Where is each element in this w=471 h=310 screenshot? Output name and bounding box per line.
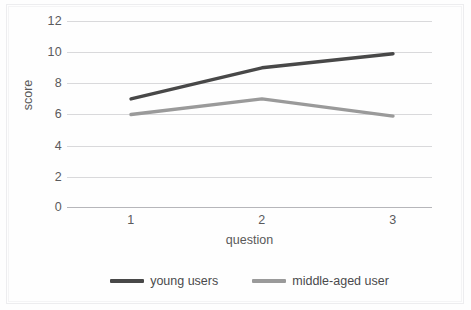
legend-label: young users — [150, 274, 218, 288]
y-axis-title: score — [21, 65, 35, 125]
y-tick-label: 10 — [28, 45, 62, 59]
legend-label: middle-aged user — [292, 274, 389, 288]
legend-swatch-icon — [110, 279, 144, 283]
x-tick-label: 1 — [127, 213, 134, 227]
legend-item-middle-aged-user: middle-aged user — [252, 274, 389, 288]
legend-item-young-users: young users — [110, 274, 218, 288]
series-line-middle-aged-user — [131, 99, 393, 116]
x-tick-label: 2 — [258, 213, 265, 227]
y-tick-label: 4 — [28, 139, 62, 153]
y-tick-label: 2 — [28, 170, 62, 184]
plot-area — [67, 21, 432, 208]
y-tick-label: 0 — [28, 200, 62, 214]
x-tick-label: 3 — [389, 213, 396, 227]
legend-swatch-icon — [252, 279, 286, 283]
x-axis-ticks: 1 2 3 — [67, 213, 432, 231]
x-axis-title: question — [67, 233, 432, 247]
series-line-young-users — [131, 54, 393, 99]
series-layer — [67, 21, 432, 208]
chart-legend: young users middle-aged user — [67, 274, 432, 288]
y-tick-label: 12 — [28, 14, 62, 28]
line-chart: 12 10 8 6 4 2 0 1 2 3 score question you… — [0, 0, 471, 310]
